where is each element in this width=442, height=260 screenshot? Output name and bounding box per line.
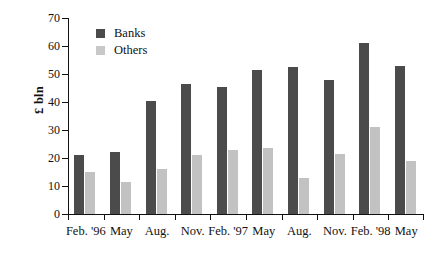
x-tick-mark [68,214,69,220]
bar-banks [110,152,120,214]
x-tick-mark [282,214,283,220]
x-tick-mark [210,214,211,220]
y-tick-mark [62,130,68,131]
x-tick-label: Nov. [181,224,205,238]
x-tick-label: May [395,224,418,238]
plot-area: 010203040506070 Feb. '96MayAug.Nov.Feb. … [68,18,424,214]
y-tick-mark [62,186,68,187]
x-tick-label: May [110,224,133,238]
x-tick-mark [104,214,105,220]
x-tick-label: Aug. [145,224,170,238]
y-tick-label: 70 [20,12,60,24]
y-tick-mark [62,18,68,19]
x-tick-labels: Feb. '96MayAug.Nov.Feb. '97MayAug.Nov.Fe… [68,224,424,248]
x-tick-mark [317,214,318,220]
bar-others [121,182,131,214]
bar-others [370,127,380,214]
bar-banks [146,101,156,214]
bar-others [157,169,167,214]
x-tick-mark [175,214,176,220]
bar-banks [359,43,369,214]
bar-banks [252,70,262,214]
y-tick-label: 0 [20,208,60,220]
y-tick-label: 10 [20,180,60,192]
y-tick-mark [62,158,68,159]
bar-others [335,154,345,214]
bar-banks [324,80,334,214]
y-tick-label: 30 [20,124,60,136]
x-tick-label: Feb. '97 [208,224,248,238]
bar-others [263,148,273,214]
y-tick-label: 20 [20,152,60,164]
x-tick-mark [246,214,247,220]
x-tick-label: Feb. '98 [351,224,391,238]
bar-others [192,155,202,214]
bar-banks [74,155,84,214]
bar-banks [217,87,227,214]
bar-banks [395,66,405,214]
bar-banks [288,67,298,214]
x-tick-label: May [252,224,275,238]
bar-others [406,161,416,214]
x-tick-mark [139,214,140,220]
bar-others [85,172,95,214]
y-tick-mark [62,46,68,47]
y-axis-line [68,18,69,214]
bar-chart: £ bln Banks Others 010203040506070 Feb. … [0,0,442,260]
x-tick-label: Nov. [323,224,347,238]
x-tick-mark [423,214,424,220]
x-tick-label: Feb. '96 [66,224,106,238]
x-tick-mark [353,214,354,220]
y-tick-mark [62,102,68,103]
x-tick-mark [388,214,389,220]
y-tick-mark [62,74,68,75]
y-tick-label: 60 [20,40,60,52]
bar-banks [181,84,191,214]
bar-others [299,178,309,214]
y-tick-label: 50 [20,68,60,80]
y-tick-label: 40 [20,96,60,108]
x-tick-label: Aug. [287,224,312,238]
bar-others [228,150,238,214]
y-tick-labels: 010203040506070 [14,18,60,214]
